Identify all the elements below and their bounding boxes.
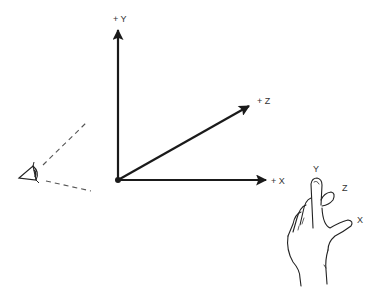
- y-axis: + Y: [113, 14, 127, 180]
- z-axis: + Z: [118, 96, 271, 180]
- y-axis-label: + Y: [113, 14, 127, 24]
- sight-line-lower: [46, 181, 91, 191]
- hand-x-label: X: [357, 215, 363, 225]
- viewer-group: [19, 121, 91, 191]
- hand-y-label: Y: [313, 164, 319, 174]
- left-hand-illustration: [288, 178, 352, 286]
- sight-line-upper: [43, 121, 88, 165]
- eye-icon: [19, 162, 39, 183]
- origin-point: [115, 177, 121, 183]
- x-axis: + X: [118, 176, 285, 186]
- hand-z-label: Z: [342, 183, 348, 193]
- coordinate-diagram: + Y + Z + X: [0, 0, 382, 294]
- x-axis-label: + X: [271, 176, 285, 186]
- z-axis-label: + Z: [257, 96, 271, 106]
